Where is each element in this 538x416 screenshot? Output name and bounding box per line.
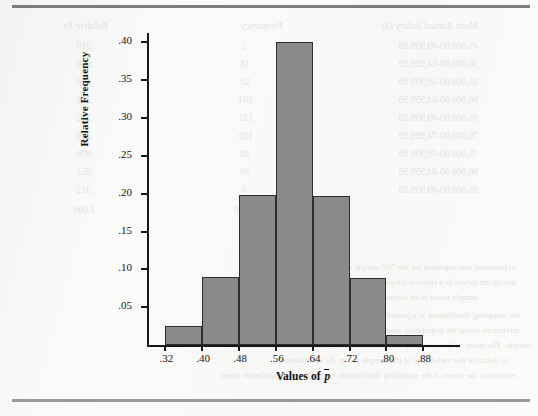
x-axis-line [147, 345, 460, 347]
y-axis-tick-label-row: .30 [100, 111, 148, 113]
histogram-bar [276, 42, 313, 345]
relative-frequency-histogram: Relative Frequency .05.10.15.20.25.30.35… [0, 0, 538, 416]
x-axis-tick [238, 345, 240, 351]
figure-page: Mean Annual Salary ($) Frequency Relativ… [0, 0, 538, 416]
y-axis-tick-label: .25 [100, 149, 132, 160]
y-axis-tick-label-row: .15 [100, 225, 148, 227]
x-axis-tick [164, 345, 166, 351]
y-axis-tick-label-row: .05 [100, 300, 148, 302]
x-axis-tick [422, 345, 424, 351]
y-axis-tick-label: .20 [100, 187, 132, 198]
x-axis-tick-label: .80 [367, 352, 407, 364]
histogram-bar [350, 278, 387, 345]
histogram-bar [202, 277, 239, 345]
x-axis-tick [275, 345, 277, 351]
x-axis-tick-label: .32 [146, 352, 186, 364]
x-axis-tick [349, 345, 351, 351]
y-axis-tick-label-row: .10 [100, 262, 148, 264]
x-axis-tick-label: .72 [331, 352, 371, 364]
y-axis-tick-label-row: .25 [100, 149, 148, 151]
y-axis-tick [141, 306, 148, 308]
x-axis-title: Values of p [147, 370, 460, 382]
y-axis-tick-label: .40 [100, 35, 132, 46]
y-axis-tick-label-row: .20 [100, 187, 148, 189]
y-axis-tick [141, 193, 148, 195]
x-axis-tick [312, 345, 314, 351]
histogram-bar [239, 195, 276, 345]
y-axis-tick [141, 117, 148, 119]
y-axis-tick [141, 268, 148, 270]
y-axis-tick-label: .10 [100, 262, 132, 273]
x-axis-tick [201, 345, 203, 351]
y-axis-tick [141, 79, 148, 81]
x-axis-tick-label: .56 [257, 352, 297, 364]
histogram-bar [313, 196, 350, 345]
y-axis-tick-label: .15 [100, 225, 132, 236]
x-axis-tick-label: .88 [404, 352, 444, 364]
y-axis-tick-label: .05 [100, 300, 132, 311]
histogram-bar [165, 326, 202, 345]
y-axis-tick-label: .30 [100, 111, 132, 122]
y-axis-tick-label-row: .35 [100, 73, 148, 75]
x-axis-tick-label: .64 [294, 352, 334, 364]
y-axis-tick [141, 231, 148, 233]
x-axis-tick-label: .48 [220, 352, 260, 364]
histogram-bar [386, 335, 423, 345]
y-axis-tick [141, 41, 148, 43]
x-axis-tick-label: .40 [183, 352, 223, 364]
x-axis-tick [385, 345, 387, 351]
y-axis-tick-label-row: .40 [100, 35, 148, 37]
x-axis-title-text: Values of [276, 370, 324, 382]
y-axis-tick-label: .35 [100, 73, 132, 84]
y-axis-title: Relative Frequency [78, 39, 90, 159]
y-axis-tick [141, 155, 148, 157]
p-bar-symbol: p [323, 370, 331, 382]
